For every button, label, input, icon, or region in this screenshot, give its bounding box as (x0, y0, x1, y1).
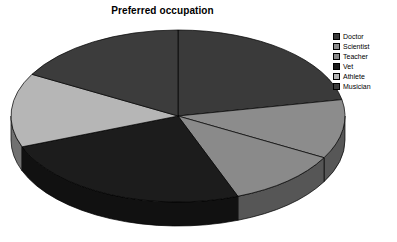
legend-item-label: Musician (343, 82, 371, 91)
legend-item-label: Doctor (343, 32, 364, 41)
legend-item-vet[interactable]: Vet (333, 62, 371, 71)
legend-item-doctor[interactable]: Doctor (333, 32, 371, 41)
chart-legend: DoctorScientistTeacherVetAthleteMusician (333, 32, 371, 91)
legend-item-athlete[interactable]: Athlete (333, 72, 371, 81)
legend-item-label: Vet (343, 62, 353, 71)
pie-chart-figure: Preferred occupation DoctorScientistTeac… (0, 0, 397, 242)
legend-swatch-icon (333, 73, 340, 80)
legend-item-label: Scientist (343, 42, 369, 51)
legend-swatch-icon (333, 43, 340, 50)
legend-item-teacher[interactable]: Teacher (333, 52, 371, 61)
legend-item-musician[interactable]: Musician (333, 82, 371, 91)
legend-swatch-icon (333, 53, 340, 60)
legend-swatch-icon (333, 83, 340, 90)
legend-item-label: Athlete (343, 72, 365, 81)
legend-swatch-icon (333, 33, 340, 40)
legend-item-label: Teacher (343, 52, 368, 61)
legend-swatch-icon (333, 63, 340, 70)
legend-item-scientist[interactable]: Scientist (333, 42, 371, 51)
